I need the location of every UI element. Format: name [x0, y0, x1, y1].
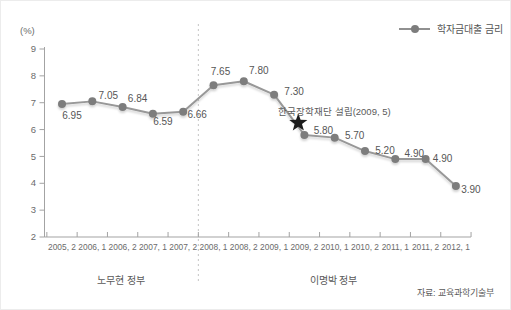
- data-point-marker: [391, 155, 399, 163]
- value-label: 5.20: [375, 145, 395, 156]
- x-axis-label: 2008, 2: [230, 242, 258, 252]
- value-label: 6.59: [153, 116, 173, 127]
- value-label: 7.65: [211, 66, 231, 77]
- x-axis-label: 2006, 2: [109, 242, 137, 252]
- value-label: 4.90: [405, 148, 425, 159]
- line-chart: 234567892005, 22006, 12006, 22007, 12007…: [1, 1, 511, 310]
- chart-panel: 234567892005, 22006, 12006, 22007, 12007…: [0, 0, 511, 310]
- data-point-marker: [300, 131, 308, 139]
- legend-label: 학자금대출 금리: [437, 21, 503, 36]
- source-label: 자료: 교육과학기술부: [417, 286, 494, 299]
- data-point-marker: [270, 91, 278, 99]
- x-axis-label: 2005, 2: [48, 242, 76, 252]
- data-point-marker: [240, 77, 248, 85]
- series-group: [58, 77, 460, 190]
- y-axis-label: 7: [31, 97, 36, 108]
- value-label: 7.80: [249, 65, 269, 76]
- value-label: 4.90: [433, 153, 453, 164]
- legend: 학자금대출 금리: [399, 21, 503, 36]
- x-axis-label: 2008, 1: [200, 242, 228, 252]
- x-axis-label: 2011, 2: [412, 242, 440, 252]
- data-point-marker: [58, 100, 66, 108]
- y-axis-label: 9: [31, 43, 36, 54]
- series-line: [62, 81, 456, 186]
- y-axis-unit-label: (%): [20, 25, 35, 36]
- data-point-marker: [119, 103, 127, 111]
- x-axis-label: 2011, 1: [382, 242, 410, 252]
- annotation-label: 한국장학재단 설립(2009, 5): [278, 104, 391, 118]
- data-point-marker: [452, 182, 460, 190]
- x-axis-label: 2009, 2: [290, 242, 318, 252]
- y-axis-label: 3: [31, 204, 36, 215]
- value-label: 6.95: [62, 110, 82, 121]
- y-axis-label: 5: [31, 151, 36, 162]
- value-label: 6.66: [187, 109, 207, 120]
- value-label: 6.84: [128, 93, 148, 104]
- x-axis-label: 2006, 1: [78, 242, 106, 252]
- legend-line-marker-icon: [399, 28, 430, 30]
- data-point-marker: [361, 147, 369, 155]
- data-point-marker: [179, 108, 187, 116]
- x-axis-label: 2007, 2: [169, 242, 197, 252]
- y-axis-label: 6: [31, 124, 36, 135]
- era-label-roh: 노무현 정부: [44, 272, 198, 287]
- y-axis-label: 8: [31, 70, 36, 81]
- data-point-marker: [210, 81, 218, 89]
- value-label: 5.70: [345, 130, 365, 141]
- x-axis-label: 2010, 2: [351, 242, 379, 252]
- data-point-marker: [88, 97, 96, 105]
- y-axis-label: 4: [31, 177, 36, 188]
- x-axis-label: 2010, 1: [321, 242, 349, 252]
- era-label-lee: 이명박 정부: [198, 272, 469, 287]
- x-axis-label: 2007, 1: [139, 242, 167, 252]
- legend-dot-icon: [411, 25, 419, 33]
- y-axis-label: 2: [31, 231, 36, 242]
- x-axis-label: 2009, 1: [260, 242, 288, 252]
- value-label: 7.30: [284, 86, 304, 97]
- value-label: 3.90: [461, 184, 481, 195]
- value-label: 7.05: [99, 90, 119, 101]
- x-axis-label: 2012, 1: [442, 242, 470, 252]
- value-label: 5.80: [314, 125, 334, 136]
